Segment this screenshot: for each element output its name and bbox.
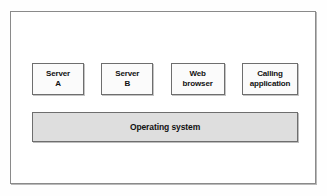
- component-label-line-2: A: [55, 79, 61, 89]
- component-label-line-1: Server: [115, 69, 139, 79]
- component-label-line-2: browser: [183, 79, 213, 89]
- system-boundary-frame: Server A Server B Web browser Calling ap…: [10, 11, 316, 184]
- component-row: Server A Server B Web browser Calling ap…: [32, 63, 298, 95]
- operating-system-bar: Operating system: [32, 112, 298, 142]
- component-label-line-1: Server: [46, 69, 70, 79]
- component-box-calling-application: Calling application: [242, 63, 298, 95]
- operating-system-label: Operating system: [130, 122, 200, 132]
- component-box-server-b: Server B: [101, 63, 153, 95]
- diagram-canvas: Server A Server B Web browser Calling ap…: [0, 0, 327, 196]
- component-label-line-2: application: [250, 79, 291, 89]
- component-label-line-1: Web: [190, 69, 206, 79]
- component-box-server-a: Server A: [32, 63, 84, 95]
- component-label-line-1: Calling: [257, 69, 283, 79]
- component-label-line-2: B: [125, 79, 131, 89]
- component-box-web-browser: Web browser: [171, 63, 225, 95]
